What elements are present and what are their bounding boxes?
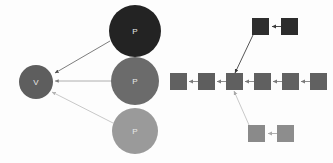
square-node-t2[interactable] — [281, 18, 298, 35]
left-graph-nodes: V P P P — [19, 5, 161, 154]
edge-pdark-to-v — [55, 41, 110, 73]
square-node-b1[interactable] — [248, 125, 265, 142]
square-node-m6[interactable] — [310, 73, 327, 90]
node-v-shape[interactable] — [19, 65, 53, 99]
edge-t1-to-m3 — [235, 35, 253, 73]
edge-b1-to-m3 — [234, 91, 249, 125]
square-node-b2[interactable] — [277, 125, 294, 142]
square-node-m3[interactable] — [226, 73, 243, 90]
square-node-m5[interactable] — [282, 73, 299, 90]
node-p-light[interactable]: P — [112, 108, 158, 154]
diagram-canvas: V P P P — [0, 0, 333, 163]
square-node-m4[interactable] — [254, 73, 271, 90]
square-node-m2[interactable] — [198, 73, 215, 90]
left-graph-edges — [52, 41, 113, 123]
diagram-svg: V P P P — [0, 0, 333, 163]
edge-plight-to-v — [52, 92, 113, 123]
node-p-mid-shape[interactable] — [111, 57, 159, 105]
node-p-light-shape[interactable] — [112, 108, 158, 154]
node-p-dark-shape[interactable] — [109, 5, 161, 57]
node-v[interactable]: V — [19, 65, 53, 99]
square-node-m1[interactable] — [170, 73, 187, 90]
node-p-dark[interactable]: P — [109, 5, 161, 57]
square-node-t1[interactable] — [252, 18, 269, 35]
node-p-mid[interactable]: P — [111, 57, 159, 105]
